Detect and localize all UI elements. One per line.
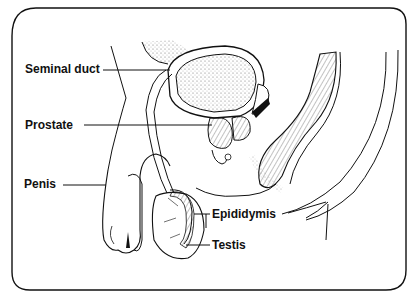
label-prostate: Prostate xyxy=(25,118,73,132)
label-seminal-duct: Seminal duct xyxy=(25,62,100,76)
urethra xyxy=(212,150,227,164)
rectum xyxy=(252,52,341,190)
prostate-gland xyxy=(208,117,250,149)
body-outline xyxy=(108,46,126,170)
label-testis: Testis xyxy=(212,238,246,252)
label-penis: Penis xyxy=(24,177,56,191)
anatomy-diagram xyxy=(0,0,417,306)
testis-shape xyxy=(152,190,204,259)
label-epididymis: Epididymis xyxy=(212,207,276,221)
leader-epididymis-right xyxy=(288,202,326,213)
bladder xyxy=(168,46,264,118)
